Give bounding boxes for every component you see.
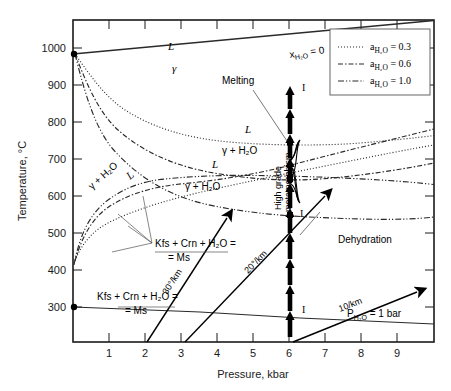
liquid-label-top: L [167, 40, 174, 52]
melting-label: Melting [222, 75, 254, 86]
y-tick-500: 500 [48, 227, 66, 239]
invariant-point-dry-solidus [71, 51, 77, 57]
x-axis-title: Pressure, kbar [217, 368, 289, 380]
invariant-point-1bar [71, 304, 77, 310]
legend-box: aH₂O = 0.3 aH₂O = 0.6 aH₂O = 1.0 [330, 29, 430, 95]
x-tick-1: 1 [106, 347, 112, 359]
pt-path-marker-middle: I [300, 208, 303, 219]
ph2o-value: = 1 bar [367, 308, 402, 319]
pt-path-marker-bottom: I [302, 304, 305, 315]
x-tick-9: 9 [394, 347, 400, 359]
metamorphism-label: metamorphism [283, 152, 293, 212]
reaction-bottom-line1: Kfs + Crn + H₂O = [97, 291, 178, 302]
pt-path-marker-top: I [302, 82, 305, 93]
y-tick-900: 900 [48, 79, 66, 91]
y-tick-600: 600 [48, 190, 66, 202]
liquid-label-a06: L [211, 158, 218, 170]
y-tick-400: 400 [48, 264, 66, 276]
x-tick-8: 8 [358, 347, 364, 359]
phase-diagram-figure: 1000 900 800 700 600 500 400 300 1 2 3 4… [0, 0, 451, 391]
high-grade-label: High grade [273, 166, 283, 210]
x-tick-2: 2 [142, 347, 148, 359]
x-tick-5: 5 [250, 347, 256, 359]
y-axis-title: Temperature, °C [16, 141, 28, 221]
reaction-label-line2: = Ms [168, 252, 190, 263]
y-tick-700: 700 [48, 153, 66, 165]
x-tick-4: 4 [214, 347, 220, 359]
reaction-label-line1: Kfs + Crn + H₂O = [155, 238, 236, 249]
dehydration-label: Dehydration [338, 234, 392, 245]
ph2o-sub: H₂O [354, 314, 368, 321]
diagram-svg: 1000 900 800 700 600 500 400 300 1 2 3 4… [0, 0, 451, 391]
gamma-label-top: γ [172, 62, 177, 74]
x-tick-6: 6 [286, 347, 292, 359]
y-tick-300: 300 [48, 301, 66, 313]
x-tick-7: 7 [322, 347, 328, 359]
gamma-water-label-a06: γ + H₂O [185, 181, 221, 192]
liquid-label-a03: L [244, 123, 251, 135]
gamma-water-label-a03: γ + H₂O [222, 145, 258, 156]
x-tick-3: 3 [178, 347, 184, 359]
y-tick-800: 800 [48, 116, 66, 128]
y-tick-1000: 1000 [42, 42, 66, 54]
